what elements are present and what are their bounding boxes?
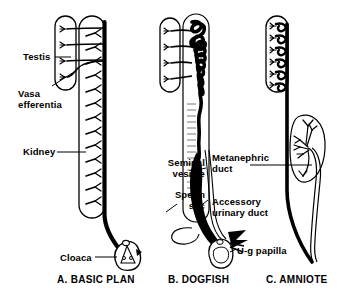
label-sperm-sac: Sperm sac xyxy=(143,189,205,211)
label-metanephric-duct: Metanephric duct xyxy=(212,152,269,174)
metanephros-c xyxy=(290,115,325,262)
sperm-sac-b xyxy=(172,228,199,244)
label-accessory-urinary-duct: Accessory urinary duct xyxy=(212,196,268,218)
label-seminal-vesicle: Seminal vesicle xyxy=(137,157,205,179)
label-testis: Testis xyxy=(23,51,50,62)
panel-amniote xyxy=(250,16,325,262)
caption-panel-c: C. AMNIOTE xyxy=(266,274,328,285)
caption-panel-a: A. BASIC PLAN xyxy=(57,274,135,285)
testis-a xyxy=(55,16,76,90)
label-vasa-efferentia: Vasa efferentia xyxy=(18,88,62,110)
testis-b xyxy=(160,18,180,92)
panel-basic-plan xyxy=(52,16,142,270)
label-kidney: Kidney xyxy=(23,146,55,157)
cloaca-a xyxy=(115,240,142,270)
panel-dogfish xyxy=(160,14,248,268)
archinephric-duct-a xyxy=(105,22,121,250)
label-cloaca: Cloaca xyxy=(60,252,92,263)
caption-panel-b: B. DOGFISH xyxy=(168,274,229,285)
figure-canvas: Testis Vasa efferentia Kidney Cloaca Sem… xyxy=(0,0,345,300)
label-ug-papilla: U-g papilla xyxy=(237,245,287,256)
